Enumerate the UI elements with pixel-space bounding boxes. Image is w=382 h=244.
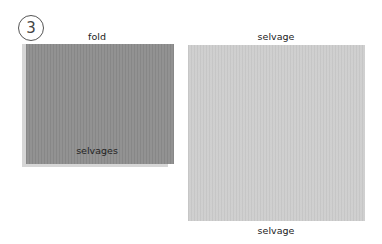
selvages-label: selvages	[76, 145, 118, 156]
fold-label: fold	[88, 31, 106, 42]
step-number: 3	[26, 19, 36, 37]
top-selvage-label: selvage	[258, 31, 295, 42]
step-number-badge: 3	[18, 15, 44, 41]
bottom-selvage-label: selvage	[258, 225, 295, 236]
open-fabric	[188, 45, 365, 221]
